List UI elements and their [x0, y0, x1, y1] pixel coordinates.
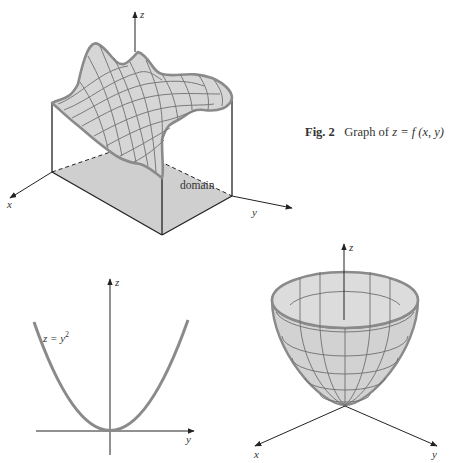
y-axis-label: y	[251, 206, 257, 218]
surface-plot: z x y domain	[6, 8, 292, 235]
caption-label: Fig. 2	[305, 125, 335, 139]
x-axis-label: x	[6, 198, 12, 210]
figure-canvas: z x y domain z y z = y2	[0, 0, 452, 463]
parabola-plot: z y z = y2	[34, 276, 194, 455]
y-axis-label: y	[185, 433, 191, 445]
z-axis-label: z	[348, 241, 354, 253]
y-axis	[345, 406, 437, 446]
caption-text: Graph of	[344, 125, 392, 139]
y-axis-label: y	[431, 448, 437, 460]
curve-label: z = y2	[42, 330, 69, 344]
z-axis-label: z	[114, 276, 120, 288]
x-axis	[255, 406, 345, 446]
x-axis	[10, 172, 52, 198]
domain-label: domain	[180, 179, 215, 191]
x-axis-label: x	[253, 448, 259, 460]
paraboloid-rim	[272, 272, 418, 328]
paraboloid-plot: z x y	[253, 241, 437, 460]
y-axis	[232, 196, 292, 208]
z-axis-label: z	[139, 8, 145, 20]
figure-caption: Fig. 2 Graph of z = f (x, y)	[305, 125, 444, 140]
caption-formula: z = f (x, y)	[392, 125, 444, 139]
